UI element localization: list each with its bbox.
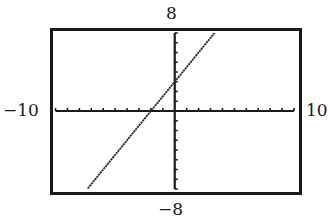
graph-window [0,0,334,222]
